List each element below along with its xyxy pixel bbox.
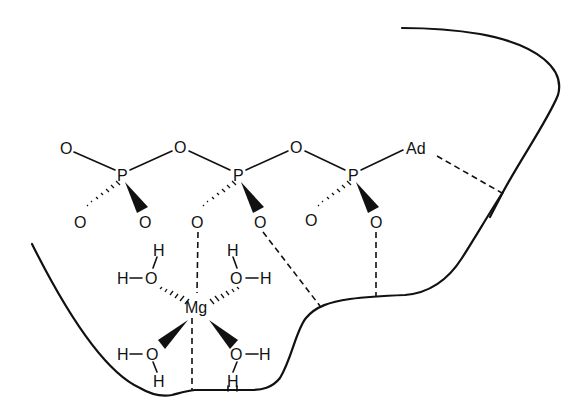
wedge-mg-lower-left — [158, 320, 188, 349]
wedge-palpha — [356, 182, 379, 213]
wedge-pgamma — [125, 182, 148, 213]
atp-mg-binding-diagram: O P O P O P Ad O O O O O O Mg H H O H O … — [0, 0, 586, 411]
hash-bond-pgamma — [87, 181, 120, 206]
atom-o-alpha-back: O — [305, 212, 317, 229]
atom-o-alpha-front: O — [370, 214, 382, 231]
wedge-bonds — [125, 182, 379, 213]
hash-bond-palpha — [318, 181, 351, 206]
water4-h-bottom: H — [227, 373, 239, 390]
wedge-pbeta — [241, 182, 264, 213]
water4-o: O — [230, 346, 242, 363]
atom-adenosine: Ad — [406, 140, 426, 157]
water1-h-left: H — [117, 270, 129, 287]
atom-mg: Mg — [185, 299, 207, 316]
hbond-ad-surface — [437, 156, 502, 193]
water2-h-top: H — [227, 242, 239, 259]
atom-p-beta: P — [233, 167, 244, 184]
wedge-mg-lower-right — [209, 320, 238, 349]
atom-p-gamma: P — [117, 167, 128, 184]
protein-surface-right-lobe — [490, 192, 503, 217]
atom-o-gamma-front: O — [139, 214, 151, 231]
atom-o-terminal: O — [60, 140, 72, 157]
water2-h-right: H — [260, 270, 272, 287]
water3-h-left: H — [117, 346, 129, 363]
water2-o: O — [230, 270, 242, 287]
protein-surface-pocket — [32, 28, 559, 396]
atom-o-beta-front: O — [254, 214, 266, 231]
water3-h-bottom: H — [153, 373, 165, 390]
atom-p-alpha: P — [348, 167, 359, 184]
water1-o: O — [145, 270, 157, 287]
hbond-obeta-surface — [263, 232, 320, 306]
hash-bond-pbeta — [203, 181, 236, 206]
water1-h-top: H — [153, 242, 165, 259]
atom-o-bridge-2: O — [290, 139, 302, 156]
water4-h-right: H — [259, 346, 271, 363]
atom-o-gamma-back: O — [74, 214, 86, 231]
atom-o-beta-back: O — [191, 214, 203, 231]
hbond-obeta-mg — [197, 232, 198, 293]
atom-labels: O P O P O P Ad O O O O O O Mg H H O H O … — [60, 139, 426, 390]
atom-o-bridge-1: O — [174, 139, 186, 156]
water3-o: O — [146, 346, 158, 363]
